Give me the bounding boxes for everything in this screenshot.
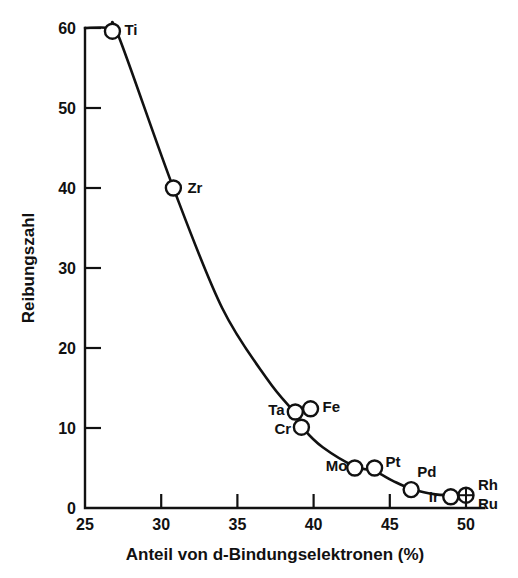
point-label-rh: Rh	[478, 476, 498, 493]
point-label-pd: Pd	[417, 463, 436, 480]
y-tick-label-30: 30	[58, 260, 76, 277]
y-tick-label-50: 50	[58, 100, 76, 117]
axis-tick-labels: 0102030405060253035404550	[58, 20, 475, 533]
y-axis-title: Reibungszahl	[19, 213, 38, 324]
x-tick-label-25: 25	[76, 516, 94, 533]
point-label-ir: Ir	[429, 488, 439, 505]
x-tick-label-45: 45	[381, 516, 399, 533]
x-tick-label-40: 40	[305, 516, 323, 533]
figure-container: 0102030405060253035404550 TiZrTaFeCrMoPt…	[0, 0, 518, 578]
x-tick-label-35: 35	[229, 516, 247, 533]
y-tick-label-40: 40	[58, 180, 76, 197]
x-tick-label-50: 50	[457, 516, 475, 533]
y-tick-label-0: 0	[67, 500, 76, 517]
point-label-cr: Cr	[274, 420, 291, 437]
y-tick-label-20: 20	[58, 340, 76, 357]
marker-ti	[105, 24, 120, 39]
point-label-pt: Pt	[386, 453, 401, 470]
marker-ta	[288, 405, 303, 420]
point-label-zr: Zr	[187, 179, 202, 196]
marker-pd	[404, 482, 419, 497]
point-label-fe: Fe	[323, 398, 341, 415]
marker-mo	[347, 461, 362, 476]
point-label-ti: Ti	[124, 21, 137, 38]
point-label-ta: Ta	[268, 401, 285, 418]
x-tick-label-30: 30	[152, 516, 170, 533]
x-axis-title: Anteil von d-Bindungselektronen (%)	[126, 545, 424, 564]
marker-pt	[367, 461, 382, 476]
point-label-ru: Ru	[478, 495, 498, 512]
y-tick-label-10: 10	[58, 420, 76, 437]
marker-fe	[303, 401, 318, 416]
marker-zr	[166, 181, 181, 196]
point-label-mo: Mo	[326, 457, 348, 474]
friction-number-chart: 0102030405060253035404550 TiZrTaFeCrMoPt…	[0, 0, 518, 578]
marker-cr	[294, 420, 309, 435]
marker-ir	[443, 489, 458, 504]
y-tick-label-60: 60	[58, 20, 76, 37]
